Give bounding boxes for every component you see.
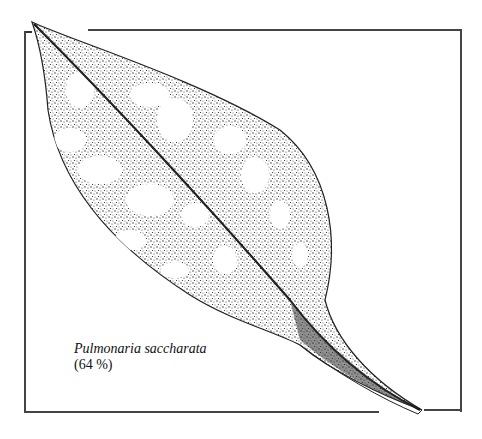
damage-percentage: (64 %) (74, 357, 207, 373)
species-name: Pulmonaria saccharata (74, 341, 207, 357)
leaf-illustration (0, 0, 482, 439)
figure-canvas: Pulmonaria saccharata (64 %) (0, 0, 482, 439)
figure-caption: Pulmonaria saccharata (64 %) (74, 341, 207, 373)
